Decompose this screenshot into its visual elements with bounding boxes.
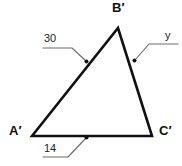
- leader-dot-y: [133, 59, 137, 63]
- leader-line-y: [135, 44, 178, 60]
- leader-line-30: [43, 48, 86, 61]
- triangle-shape: [32, 28, 152, 136]
- leader-dot-14: [85, 136, 89, 140]
- vertex-label-a-prime: A′: [9, 124, 22, 137]
- leader-dot-30: [85, 60, 89, 64]
- geometry-figure: B′ A′ C′ 30 y 14: [0, 0, 182, 166]
- side-length-label-bc: y: [165, 30, 171, 41]
- vertex-label-b-prime: B′: [112, 1, 125, 14]
- triangle-diagram-svg: [0, 0, 182, 166]
- side-length-label-ac: 14: [44, 143, 56, 154]
- vertex-label-c-prime: C′: [159, 124, 172, 137]
- side-length-label-ab: 30: [44, 33, 56, 44]
